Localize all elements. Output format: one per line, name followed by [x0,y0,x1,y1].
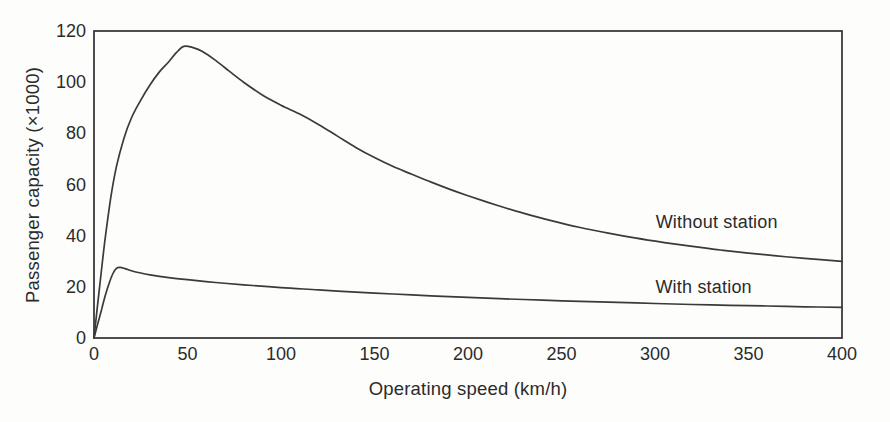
y-tick-label: 100 [40,72,86,92]
x-tick-label: 150 [359,344,389,364]
y-tick-label: 0 [40,328,86,348]
series-label-without-station: Without station [656,211,778,232]
y-tick-label: 20 [40,277,86,297]
x-axis-title: Operating speed (km/h) [369,378,568,400]
y-tick-label: 40 [40,226,86,246]
y-tick-label: 80 [40,123,86,143]
x-tick-label: 100 [266,344,296,364]
x-tick-label: 200 [453,344,483,364]
y-tick-label: 60 [40,175,86,195]
x-tick-label: 250 [546,344,576,364]
series-label-with-station: With station [655,276,751,297]
y-tick-label: 120 [40,21,86,41]
x-tick-label: 400 [827,344,857,364]
chart-figure: Passenger capacity (×1000) Operating spe… [0,0,890,422]
x-tick-label: 350 [733,344,763,364]
x-tick-label: 300 [640,344,670,364]
x-tick-label: 0 [89,344,99,364]
x-tick-label: 50 [177,344,197,364]
